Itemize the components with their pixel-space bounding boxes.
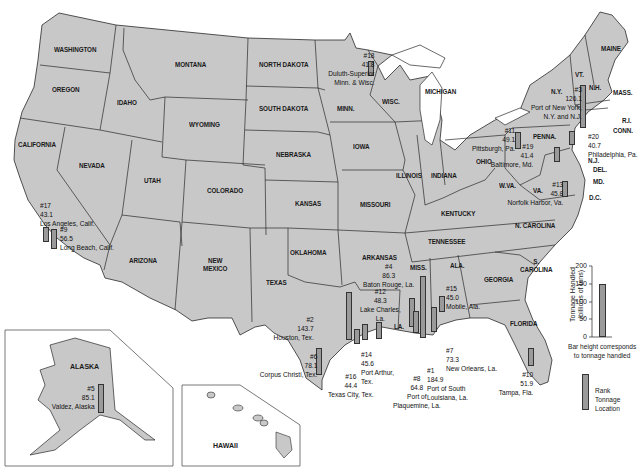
state-label: TEXAS [266, 279, 287, 287]
state-label: CALIFORNIA [18, 141, 56, 149]
state-label: DEL. [593, 166, 607, 174]
legend-tick-100: 100 [569, 298, 587, 305]
state-label: WYOMING [189, 121, 220, 129]
state-label: NEVADA [79, 162, 105, 170]
state-label: KANSAS [295, 200, 321, 208]
port-bar [51, 229, 57, 249]
inset-label: HAWAII [213, 442, 238, 449]
state-label: COLORADO [207, 187, 243, 195]
legend-example-bar [599, 284, 606, 337]
port-bar [420, 276, 426, 338]
state-label: TENNESSEE [428, 238, 465, 246]
state-label: ARKANSAS [362, 254, 397, 262]
state-label: WASHINGTON [54, 46, 96, 54]
port-label: #17 43.1 Los Angeles, Calif. [40, 201, 95, 228]
state-label: D.C. [589, 194, 601, 202]
state-label: NEBRASKA [276, 151, 311, 159]
port-bar [528, 348, 534, 366]
legend-tick-0: 0 [569, 333, 587, 340]
legend-key-lines: Rank Tonnage Location [595, 386, 620, 413]
state-label: OHIO [476, 158, 492, 166]
port-bar [376, 322, 382, 339]
state-label: WISC. [382, 98, 400, 106]
state-label: GEORGIA [484, 276, 513, 284]
port-bar [98, 384, 104, 413]
port-label: #10 51.9 Tampa, Fla. [499, 370, 533, 397]
port-label: #19 41.4 Baltimore, Md. [491, 142, 534, 169]
state-label: NEW MEXICO [203, 257, 227, 273]
state-label: MONTANA [175, 61, 206, 69]
state-label: NORTH DAKOTA [259, 61, 309, 69]
port-label: #20 40.7 Philadelphia, Pa. [588, 132, 638, 159]
state-label: MINN. [337, 105, 354, 113]
port-bar [346, 292, 352, 340]
state-label: ARIZONA [129, 257, 157, 265]
state-label: UTAH [144, 177, 161, 185]
state-label: N.H. [589, 84, 601, 92]
state-label: INDIANA [431, 172, 457, 180]
legend-caption: Bar height corresponds to tonnage handle… [568, 342, 636, 360]
state-label: LA. [394, 323, 404, 331]
state-label: MAINE [601, 45, 621, 53]
port-label: #8 64.8 Port of Plaquemine, La. [393, 374, 441, 410]
state-label: ILLINOIS [396, 172, 422, 180]
port-label: #2 143.7 Houston, Tex. [273, 315, 313, 342]
state-label: MD. [593, 178, 604, 186]
port-bar [554, 147, 560, 162]
port-label: #3 126.1 Port of New York, N.Y. and N.J. [531, 85, 582, 121]
state-label: N. CAROLINA [515, 222, 555, 230]
state-label: MASS. [613, 89, 633, 97]
legend-tick-50: 50 [569, 315, 587, 322]
port-bar [362, 324, 368, 340]
hawaii-inset [182, 385, 300, 466]
state-label: FLORIDA [510, 320, 537, 328]
inset-label: ALASKA [70, 363, 99, 370]
legend-tick-150: 150 [569, 280, 587, 287]
port-bar [413, 311, 419, 333]
state-label: SOUTH DAKOTA [259, 105, 308, 113]
state-label: IOWA [353, 143, 369, 151]
state-label: KENTUCKY [441, 210, 475, 218]
legend-tick-200: 200 [569, 262, 587, 269]
port-bar [431, 307, 437, 332]
port-label: #4 86.3 Baton Rouge, La. [363, 262, 414, 289]
port-bar [569, 131, 575, 145]
state-label: VT. [575, 71, 584, 79]
port-bar [43, 227, 49, 242]
port-label: #6 78.1 Corpus Christi, Tex. [260, 352, 317, 379]
state-label: OKLAHOMA [290, 249, 326, 257]
port-label: #5 85.1 Valdez, Alaska [52, 384, 95, 411]
port-label: #9 56.5 Long Beach, Calif. [60, 225, 114, 252]
state-label: MICHIGAN [425, 88, 456, 96]
state-label: OREGON [52, 86, 79, 94]
port-bar [354, 329, 360, 344]
port-label: #15 45.0 Mobile, Ala. [446, 284, 480, 311]
port-bar [439, 296, 445, 312]
state-label: IDAHO [117, 99, 137, 107]
state-label: MISSOURI [360, 201, 390, 209]
state-label: R.I. [622, 117, 631, 125]
port-label: #13 45.8 Norfolk Harbor, Va. [508, 180, 564, 207]
state-label: S. CAROLINA [520, 258, 553, 274]
port-label: #7 73.3 New Orleans, La. [446, 346, 497, 373]
port-label: #12 48.3 Lake Charles, La. [360, 287, 401, 323]
state-label: PENNA. [533, 133, 556, 141]
port-label: #18 41.8 Duluth-Superior Minn. & Wisc. [328, 51, 374, 87]
state-label: ALA. [450, 262, 464, 270]
legend-key-bar [582, 374, 589, 410]
port-label: #16 44.4 Texas City, Tex. [328, 372, 374, 399]
